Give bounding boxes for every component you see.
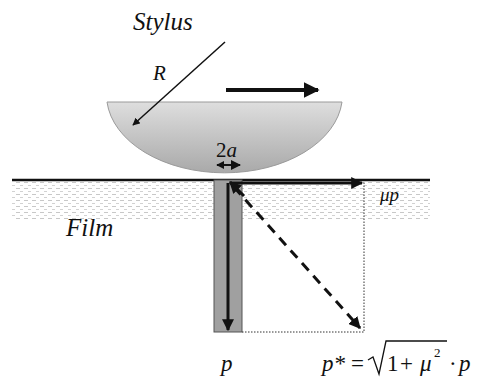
contact-width-variable: a (227, 138, 238, 162)
resultant-formula: p* = 1 + μ 2 · p (320, 341, 471, 376)
stylus-film-diagram: Stylus R 2a Film μp p p* = 1 + μ 2 · p (0, 0, 489, 387)
film-label: Film (65, 214, 113, 241)
contact-width-number: 2 (216, 138, 227, 162)
stylus-label: Stylus (133, 8, 193, 35)
formula-lhs: p* (320, 351, 346, 376)
contact-width-label: 2a (216, 138, 237, 162)
formula-dot: · (449, 351, 457, 376)
normal-pressure-label: p (219, 351, 233, 376)
friction-label: μp (379, 184, 399, 205)
formula-equals: = (351, 351, 364, 376)
formula-exponent: 2 (434, 345, 441, 360)
radius-label: R (152, 61, 166, 85)
formula-one: 1 (387, 351, 399, 376)
formula-rhs: p (457, 351, 471, 376)
formula-mu: μ (419, 351, 432, 376)
formula-plus: + (400, 351, 413, 376)
